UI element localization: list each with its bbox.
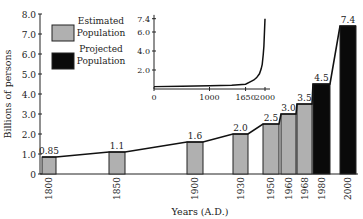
y-tick-label: 3.0 <box>22 110 37 120</box>
x-tick-labels: 180018501900193019501960196819802000 <box>44 177 353 200</box>
value-label: 3.0 <box>281 103 296 113</box>
inset-curve <box>154 19 265 87</box>
x-tick-label: 1950 <box>266 177 276 200</box>
legend: EstimatedPopulationProjectedPopulation <box>52 16 126 69</box>
bar-1850 <box>109 152 125 174</box>
legend-label: Population <box>77 28 126 38</box>
inset-x-tick-label: 2000 <box>255 93 275 102</box>
bar-1900 <box>187 142 203 174</box>
inset-x-tick-label: 0 <box>151 93 156 102</box>
inset-x-tick-label: 1650 <box>235 93 255 102</box>
inset-y-tick-label: 7.4 <box>137 15 150 24</box>
legend-label: Population <box>77 56 126 66</box>
value-label: 7.4 <box>341 15 356 25</box>
bar-1980 <box>313 84 330 174</box>
x-tick-label: 1980 <box>317 177 327 200</box>
inset-y-tick-label: 6.0 <box>137 28 150 37</box>
x-axis-label: Years (A.D.) <box>171 206 229 217</box>
value-label: 2.0 <box>233 123 248 133</box>
y-tick-label: 1.0 <box>22 150 37 160</box>
bars: 0.851.11.62.02.53.03.54.57.4 <box>39 15 356 174</box>
legend-swatch-1 <box>52 53 74 69</box>
legend-label: Estimated <box>78 16 125 26</box>
y-tick-label: 2.0 <box>22 130 37 140</box>
bar-1930 <box>233 134 248 174</box>
y-tick-label: 6.0 <box>22 50 37 60</box>
y-tick-label: 5.0 <box>22 70 37 80</box>
x-tick-label: 1930 <box>236 177 246 200</box>
bar-1800 <box>42 157 56 174</box>
bar-2000 <box>340 26 356 174</box>
value-label: 3.5 <box>297 93 312 103</box>
bar-1968 <box>297 104 312 174</box>
x-tick-label: 1960 <box>284 177 294 200</box>
legend-label: Projected <box>79 44 123 54</box>
inset-y-tick-label: 2.0 <box>137 66 150 75</box>
y-tick-label: 8.0 <box>22 10 37 20</box>
y-tick-label: 0 <box>30 170 36 180</box>
legend-swatch-0 <box>52 25 74 41</box>
inset-line-chart: 2.04.06.07.40100016502000 <box>137 15 275 102</box>
y-axis-label: Billions of persons <box>2 49 13 138</box>
x-tick-label: 1800 <box>44 177 54 200</box>
inset-x-tick-label: 1000 <box>199 93 219 102</box>
population-chart: 01.02.03.04.05.06.07.08.0 0.851.11.62.02… <box>0 0 363 219</box>
x-tick-label: 1968 <box>300 177 310 200</box>
y-tick-label: 4.0 <box>22 90 37 100</box>
value-label: 1.6 <box>188 131 203 141</box>
y-tick-label: 7.0 <box>22 30 37 40</box>
bar-1960 <box>281 114 296 174</box>
bar-1950 <box>263 124 279 174</box>
value-label: 0.85 <box>39 146 59 156</box>
value-label: 4.5 <box>314 73 329 83</box>
value-label: 1.1 <box>110 141 124 151</box>
x-tick-label: 1900 <box>190 177 200 200</box>
inset-y-tick-label: 4.0 <box>137 47 150 56</box>
x-tick-label: 2000 <box>343 177 353 200</box>
x-tick-label: 1850 <box>112 177 122 200</box>
value-label: 2.5 <box>264 113 279 123</box>
